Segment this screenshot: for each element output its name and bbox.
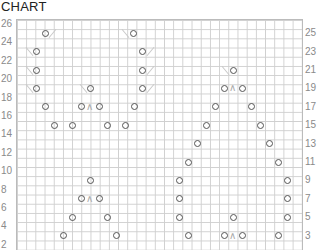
yarn-over-icon <box>51 122 58 129</box>
yarn-over-icon <box>139 67 146 74</box>
yarn-over-icon <box>284 214 291 221</box>
row-label-left: 14 <box>1 128 12 139</box>
yarn-over-icon <box>87 85 94 92</box>
yarn-over-icon <box>96 195 103 202</box>
yarn-over-icon <box>33 85 40 92</box>
row-label-left: 16 <box>1 110 12 121</box>
yarn-over-icon <box>284 177 291 184</box>
row-label-left: 22 <box>1 55 12 66</box>
yarn-over-icon <box>139 48 146 55</box>
yarn-over-icon <box>96 103 103 110</box>
row-label-right: 7 <box>305 193 311 204</box>
yarn-over-icon <box>176 195 183 202</box>
yarn-over-icon <box>203 122 210 129</box>
row-label-left: 24 <box>1 36 12 47</box>
row-label-right: 19 <box>305 82 316 93</box>
yarn-over-icon <box>185 232 192 239</box>
row-label-right: 5 <box>305 211 311 222</box>
knitting-chart-grid <box>16 19 303 250</box>
yarn-over-icon <box>69 214 76 221</box>
row-label-left: 12 <box>1 147 12 158</box>
yarn-over-icon <box>131 103 138 110</box>
yarn-over-icon <box>194 140 201 147</box>
yarn-over-icon <box>266 140 273 147</box>
yarn-over-icon <box>257 122 264 129</box>
yarn-over-icon <box>176 177 183 184</box>
yarn-over-icon <box>275 159 282 166</box>
chart-title: CHART <box>1 0 47 14</box>
central-double-decrease-icon: ∧ <box>86 193 93 204</box>
row-label-right: 3 <box>305 230 311 241</box>
row-label-left: 8 <box>1 184 7 195</box>
yarn-over-icon <box>239 85 246 92</box>
yarn-over-icon <box>42 103 49 110</box>
yarn-over-icon <box>185 159 192 166</box>
yarn-over-icon <box>212 103 219 110</box>
row-label-left: 26 <box>1 18 12 29</box>
yarn-over-icon <box>87 177 94 184</box>
central-double-decrease-icon: ∧ <box>86 101 93 112</box>
yarn-over-icon <box>139 85 146 92</box>
row-label-right: 21 <box>305 64 316 75</box>
yarn-over-icon <box>221 85 228 92</box>
yarn-over-icon <box>239 232 246 239</box>
row-label-right: 15 <box>305 119 316 130</box>
row-label-right: 17 <box>305 101 316 112</box>
yarn-over-icon <box>230 214 237 221</box>
yarn-over-icon <box>104 122 111 129</box>
yarn-over-icon <box>78 195 85 202</box>
row-label-left: 20 <box>1 73 12 84</box>
yarn-over-icon <box>60 232 67 239</box>
yarn-over-icon <box>221 232 228 239</box>
yarn-over-icon <box>122 122 129 129</box>
yarn-over-icon <box>33 67 40 74</box>
row-label-left: 4 <box>1 220 7 231</box>
row-label-right: 9 <box>305 174 311 185</box>
yarn-over-icon <box>248 103 255 110</box>
row-label-right: 23 <box>305 46 316 57</box>
central-double-decrease-icon: ∧ <box>229 82 236 93</box>
central-double-decrease-icon: ∧ <box>229 230 236 241</box>
yarn-over-icon <box>230 67 237 74</box>
row-label-left: 10 <box>1 165 12 176</box>
yarn-over-icon <box>42 30 49 37</box>
yarn-over-icon <box>275 232 282 239</box>
row-label-left: 18 <box>1 92 12 103</box>
yarn-over-icon <box>33 48 40 55</box>
yarn-over-icon <box>78 103 85 110</box>
yarn-over-icon <box>113 232 120 239</box>
row-label-left: 2 <box>1 239 7 250</box>
yarn-over-icon <box>69 122 76 129</box>
row-label-right: 11 <box>305 156 315 167</box>
row-label-right: 25 <box>305 27 316 38</box>
yarn-over-icon <box>130 30 137 37</box>
row-label-left: 6 <box>1 202 7 213</box>
yarn-over-icon <box>176 214 183 221</box>
yarn-over-icon <box>284 195 291 202</box>
row-label-right: 13 <box>305 138 316 149</box>
yarn-over-icon <box>104 214 111 221</box>
